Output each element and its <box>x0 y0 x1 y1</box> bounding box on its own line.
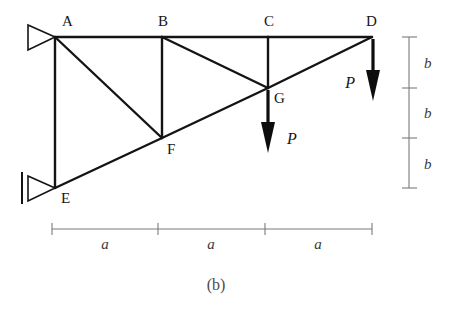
dimension-label-b-1: b <box>424 55 432 71</box>
figure-caption: (b) <box>207 276 226 294</box>
dimension-label-a-2: a <box>207 236 215 252</box>
node-label-G: G <box>274 90 285 106</box>
load-label-G: P <box>286 130 297 147</box>
dimension-label-a-1: a <box>101 236 109 252</box>
node-label-E: E <box>61 190 70 206</box>
figure-background <box>0 0 449 311</box>
node-label-D: D <box>366 13 377 29</box>
dimension-label-b-2: b <box>424 105 432 121</box>
truss-figure: A B C D E F G P P a a a <box>0 0 449 311</box>
dimension-label-a-3: a <box>314 236 322 252</box>
dimension-label-b-3: b <box>424 156 432 172</box>
node-label-B: B <box>158 13 168 29</box>
node-label-A: A <box>62 13 73 29</box>
node-label-C: C <box>264 13 274 29</box>
truss-diagram-canvas: A B C D E F G P P a a a <box>0 0 449 311</box>
node-label-F: F <box>167 141 175 157</box>
load-label-D: P <box>344 74 355 91</box>
